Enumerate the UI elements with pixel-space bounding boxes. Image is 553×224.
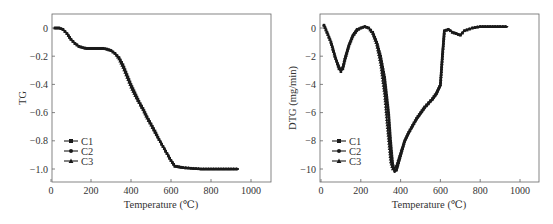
dtg-legend: C1C2C3 [332,136,361,167]
dtg-y-axis-title: DTG (mg/min) [287,66,299,130]
legend-item-c3: C3 [81,156,93,167]
y-tick-label: 0 [43,23,48,34]
x-tick-label: 200 [353,185,368,196]
y-tick-label: −6 [305,107,316,118]
x-tick-label: 400 [393,185,408,196]
y-tick-label: −4 [305,79,316,90]
x-tick-label: 600 [164,185,179,196]
figure: 0−0.2−0.4−0.6−0.8−1.0 02004006008001000 … [0,0,553,224]
dtg-x-axis-title: Temperature (℃) [392,199,467,211]
y-tick-label: −0.6 [30,107,48,118]
x-tick-label: 0 [49,185,54,196]
y-tick-label: 0 [311,23,316,34]
x-tick-label: 600 [433,185,448,196]
y-tick-label: −1.0 [30,164,48,175]
y-tick-label: −0.4 [30,79,48,90]
y-tick-label: −0.8 [30,135,48,146]
tg-legend: C1C2C3 [64,136,93,167]
x-tick-label: 400 [124,185,139,196]
y-tick-label: −8 [305,135,316,146]
x-tick-label: 1000 [241,185,261,196]
x-tick-label: 800 [473,185,488,196]
tg-x-axis-title: Temperature (℃) [124,199,199,211]
dtg-x-axis: 02004006008001000 [319,179,531,196]
dtg-chart: 0−2−4−6−8−10 02004006008001000 C1C2C3 DT… [287,14,539,211]
y-tick-label: −10 [300,164,316,175]
x-tick-label: 0 [319,185,324,196]
tg-chart: 0−0.2−0.4−0.6−0.8−1.0 02004006008001000 … [17,14,271,211]
y-tick-label: −2 [305,51,316,62]
legend-item-c3: C3 [349,156,361,167]
x-tick-label: 200 [84,185,99,196]
y-tick-label: −0.2 [30,51,48,62]
tg-y-axis-title: TG [17,91,28,105]
tg-x-axis: 02004006008001000 [49,179,262,196]
x-tick-label: 1000 [510,185,530,196]
x-tick-label: 800 [204,185,219,196]
tg-y-axis: 0−0.2−0.4−0.6−0.8−1.0 [30,23,55,175]
